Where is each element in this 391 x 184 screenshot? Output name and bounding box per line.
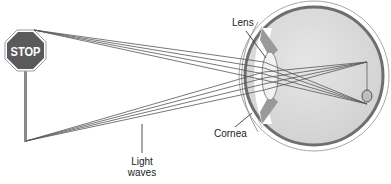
light-waves-label-line1: Light [127,156,157,167]
light-waves-label-line2: waves [127,167,157,178]
stop-sign-text: STOP [11,44,41,59]
cornea-label: Cornea [214,128,247,139]
lens-label: Lens [232,17,254,28]
eye-light-diagram: STOP [0,0,391,184]
stop-sign: STOP [5,30,46,142]
light-waves-label: Light waves [127,156,157,178]
optic-disc [362,90,372,102]
sign-post [24,70,27,142]
cornea-leader [235,113,252,127]
